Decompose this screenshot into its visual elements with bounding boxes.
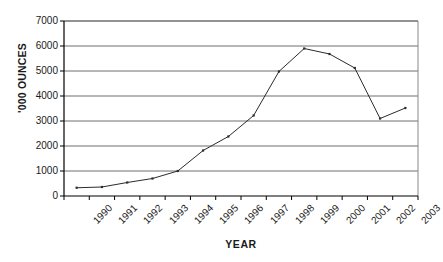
gridlines [64, 21, 418, 171]
data-point-marker [253, 114, 255, 116]
data-point-marker [303, 47, 305, 49]
data-point-marker [328, 53, 330, 55]
data-point-marker [202, 149, 204, 151]
data-point-marker [278, 70, 280, 72]
data-point-marker [177, 170, 179, 172]
data-point-marker [354, 67, 356, 69]
data-point-marker [126, 181, 128, 183]
data-point-marker [101, 186, 103, 188]
data-point-marker [76, 187, 78, 189]
data-point-marker [404, 107, 406, 109]
x-tick-marks [64, 196, 418, 200]
data-point-marker [151, 177, 153, 179]
data-line-series-production [77, 49, 406, 188]
data-point-markers [76, 47, 407, 188]
data-point-marker [227, 135, 229, 137]
data-point-marker [379, 117, 381, 119]
axes [64, 21, 418, 196]
